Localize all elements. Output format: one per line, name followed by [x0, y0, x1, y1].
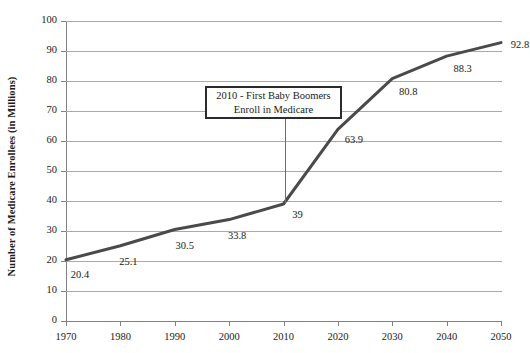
- annotation-line-1: 2010 - First Baby Boomers: [216, 89, 330, 102]
- data-point-label: 92.8: [511, 38, 529, 49]
- x-tick-label: 2040: [436, 331, 457, 342]
- y-tick-label: 20: [47, 254, 58, 265]
- data-point-label: 20.4: [71, 268, 89, 279]
- x-tick-label: 2000: [219, 331, 240, 342]
- y-tick-label: 60: [47, 134, 58, 145]
- data-point-label: 80.8: [399, 85, 417, 96]
- y-tick-label: 80: [47, 74, 58, 85]
- annotation-leader-line: [285, 119, 286, 204]
- x-tick-label: 2020: [327, 331, 348, 342]
- y-axis-title: Number of Medicare Enrollees (in Million…: [0, 0, 22, 353]
- data-point-label: 88.3: [453, 63, 471, 74]
- x-tick-label: 2010: [273, 331, 294, 342]
- y-tick-label: 0: [52, 314, 57, 325]
- data-point-label: 25.1: [119, 255, 137, 266]
- x-tick-label: 2030: [382, 331, 403, 342]
- y-tick-label: 40: [47, 194, 58, 205]
- y-tick-label: 10: [47, 284, 58, 295]
- y-tick-label: 30: [47, 224, 58, 235]
- annotation-line-2: Enroll in Medicare: [234, 103, 313, 116]
- y-tick-label: 70: [47, 104, 58, 115]
- y-tick-label: 90: [47, 44, 58, 55]
- plot-area: [66, 21, 502, 322]
- series-line: [66, 21, 502, 322]
- y-tick-label: 50: [47, 164, 58, 175]
- data-point-label: 30.5: [176, 239, 194, 250]
- x-tick-label: 1990: [164, 331, 185, 342]
- data-point-label: 33.8: [228, 229, 246, 240]
- y-tick-label: 100: [41, 14, 57, 25]
- x-tick-label: 1970: [56, 331, 77, 342]
- medicare-enrollees-line-chart: Number of Medicare Enrollees (in Million…: [0, 0, 530, 353]
- data-point-label: 39: [292, 209, 303, 220]
- x-tick-label: 1980: [110, 331, 131, 342]
- x-tick-label: 2050: [491, 331, 512, 342]
- annotation-callout-box: 2010 - First Baby Boomers Enroll in Medi…: [205, 86, 342, 119]
- data-point-label: 63.9: [345, 134, 363, 145]
